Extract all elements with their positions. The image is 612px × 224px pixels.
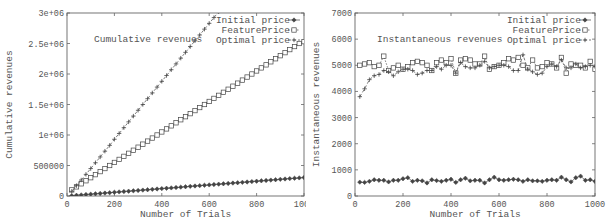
instantaneous-chart-svg: 0200400600800100001000200030004000500060…	[306, 0, 612, 224]
x-tick-label: 200	[395, 200, 410, 210]
series-featureprice	[70, 39, 306, 192]
y-tick-label: 500000	[33, 162, 64, 172]
y-tick-label: 1e+06	[38, 131, 64, 141]
legend: Initial priceFeaturePriceOptimal price	[507, 15, 591, 46]
series-initial-price	[70, 175, 306, 198]
y-tick-label: 3000	[332, 114, 352, 124]
x-tick-label: 800	[539, 200, 554, 210]
series-optimal-price	[358, 53, 598, 99]
y-tick-label: 1000	[332, 166, 352, 176]
y-tick-label: 0	[347, 192, 352, 202]
x-tick-label: 0	[352, 200, 357, 210]
x-tick-label: 200	[107, 200, 122, 210]
y-tick-label: 0	[59, 192, 64, 202]
series-initial-price	[358, 174, 598, 185]
x-tick-label: 0	[64, 200, 69, 210]
series-featureprice	[358, 54, 598, 75]
legend: Initial priceFeaturePriceOptimal price	[216, 15, 300, 46]
x-axis-title: Number of Trials	[140, 209, 231, 220]
y-tick-label: 6000	[332, 35, 352, 45]
y-tick-label: 7000	[332, 9, 352, 19]
y-tick-label: 1.5e+06	[28, 101, 64, 111]
y-tick-label: 4000	[332, 87, 352, 97]
y-axis-title: Instantaneous revenues	[311, 42, 322, 167]
instantaneous-revenues-chart: 0200400600800100001000200030004000500060…	[306, 0, 612, 224]
y-tick-label: 2.5e+06	[28, 40, 64, 50]
x-tick-label: 800	[249, 200, 264, 210]
cumulative-chart-svg: 0200400600800100005000001e+061.5e+062e+0…	[0, 0, 306, 224]
legend-label: Optimal price	[507, 35, 581, 46]
x-tick-label: 1000	[294, 200, 306, 210]
y-axis-title: Cumulative revenues	[4, 50, 15, 158]
chart-inset-title: Cumulative revenues	[94, 34, 202, 45]
x-axis-title: Number of Trials	[429, 209, 520, 220]
y-tick-label: 3e+06	[38, 9, 64, 19]
y-tick-label: 2000	[332, 140, 352, 150]
y-tick-label: 2e+06	[38, 70, 64, 80]
x-tick-label: 1000	[585, 200, 605, 210]
chart-inset-title: Instantaneous revenues	[377, 34, 502, 45]
legend-label: Optimal price	[216, 35, 290, 46]
y-tick-label: 5000	[332, 61, 352, 71]
cumulative-revenues-chart: 0200400600800100005000001e+061.5e+062e+0…	[0, 0, 306, 224]
